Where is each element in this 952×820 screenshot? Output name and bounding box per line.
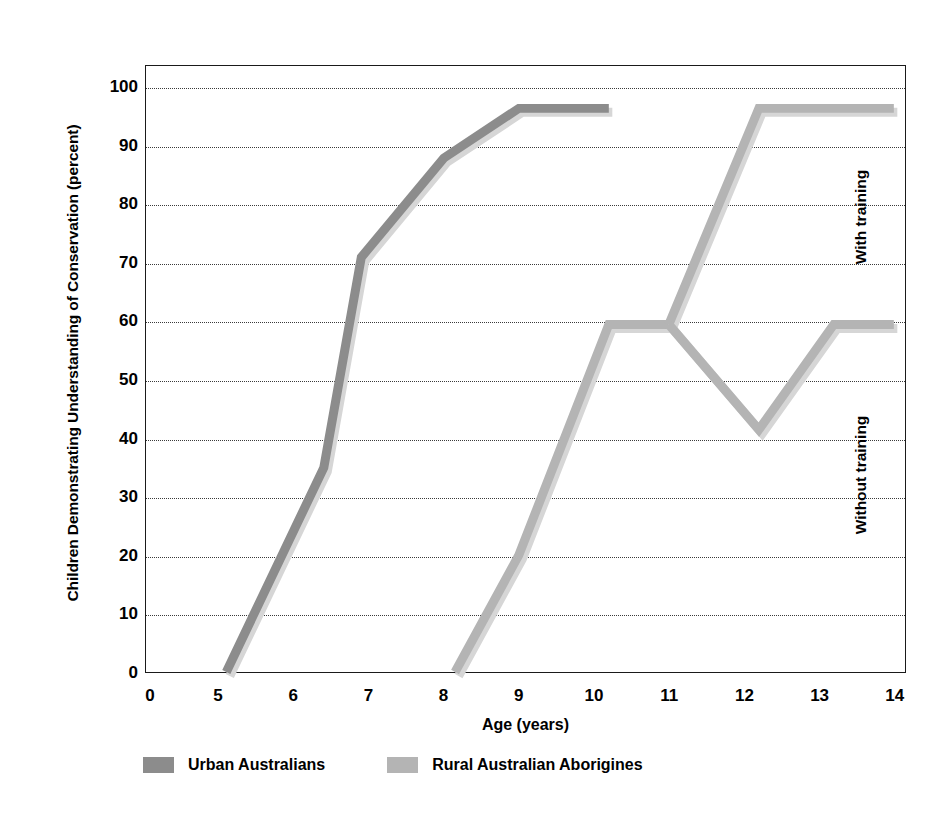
plot-annotation: With training: [853, 170, 871, 265]
x-axis-tick-label: 8: [414, 686, 474, 706]
x-axis-tick-label: 9: [489, 686, 549, 706]
plot-annotation: Without training: [853, 415, 871, 534]
legend-item: Rural Australian Aborigines: [387, 756, 642, 774]
y-axis-tick-label: 0: [90, 663, 138, 683]
y-axis-tick-label: 40: [90, 429, 138, 449]
series-line-1-shadow: [230, 112, 613, 676]
data-series-lines: [146, 66, 905, 672]
series-line-1: [226, 108, 609, 672]
x-axis-tick-label: 11: [639, 686, 699, 706]
chart-legend: Urban AustraliansRural Australian Aborig…: [143, 752, 643, 778]
y-axis-tick-label: 50: [90, 370, 138, 390]
y-axis-tick-label: 10: [90, 604, 138, 624]
y-axis-tick-label: 80: [90, 194, 138, 214]
x-axis-tick-label: 13: [790, 686, 850, 706]
y-axis-tick-label: 100: [90, 77, 138, 97]
series-line-2-shadow: [459, 328, 673, 676]
legend-item: Urban Australians: [143, 756, 325, 774]
x-axis-tick-label: 14: [865, 686, 925, 706]
plot-area: With trainingWithout training: [145, 65, 906, 673]
legend-label: Urban Australians: [188, 756, 325, 774]
x-axis-tick-label: 12: [714, 686, 774, 706]
y-axis-tick-label: 60: [90, 311, 138, 331]
chart-figure: Children Demonstrating Understanding of …: [0, 0, 952, 820]
legend-color-swatch: [143, 757, 174, 773]
y-axis-tick-label: 30: [90, 487, 138, 507]
y-axis-tick-label: 70: [90, 253, 138, 273]
series-line-2: [455, 324, 669, 672]
x-axis-tick-labels: 0567891011121314: [0, 686, 952, 712]
x-axis-tick-label: 10: [564, 686, 624, 706]
x-axis-tick-label: 7: [338, 686, 398, 706]
x-axis-title: Age (years): [145, 716, 906, 734]
y-axis-tick-label: 20: [90, 546, 138, 566]
x-axis-tick-label: 5: [188, 686, 248, 706]
x-axis-tick-label: 0: [120, 686, 180, 706]
x-axis-tick-label: 6: [263, 686, 323, 706]
legend-label: Rural Australian Aborigines: [432, 756, 642, 774]
legend-color-swatch: [387, 757, 418, 773]
y-axis-tick-label: 90: [90, 136, 138, 156]
